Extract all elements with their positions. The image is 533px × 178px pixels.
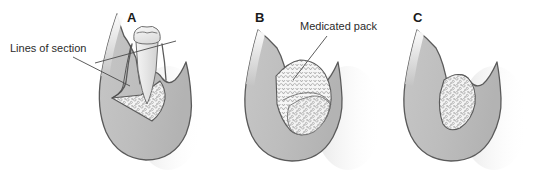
panel-a: A Lines of section [10, 10, 202, 170]
panel-b: B Medicated pack [245, 10, 382, 170]
anatomical-illustration: A Lines of section B Medicated pack [0, 0, 533, 178]
panel-a-tooth-crown [134, 26, 160, 44]
figure-container: A Lines of section B Medicated pack [0, 0, 533, 178]
panel-a-letter: A [127, 10, 137, 25]
panel-b-letter: B [255, 10, 264, 25]
panel-c: C [404, 10, 528, 170]
callout-lines-of-section-label: Lines of section [10, 42, 86, 54]
panel-c-letter: C [413, 10, 423, 25]
callout-medicated-pack-label: Medicated pack [300, 20, 378, 32]
